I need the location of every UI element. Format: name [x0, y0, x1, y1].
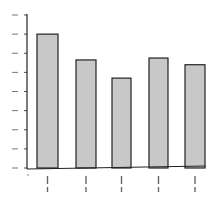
x-axis-labels [27, 174, 195, 192]
origin-mark [27, 174, 28, 175]
y-axis-ticks [12, 15, 27, 168]
bar-1 [37, 34, 58, 168]
bars [37, 34, 205, 168]
bar-3 [112, 78, 131, 168]
bar-5 [185, 65, 205, 168]
bar-chart [0, 0, 222, 204]
bar-4 [149, 58, 168, 168]
bar-2 [76, 60, 96, 168]
